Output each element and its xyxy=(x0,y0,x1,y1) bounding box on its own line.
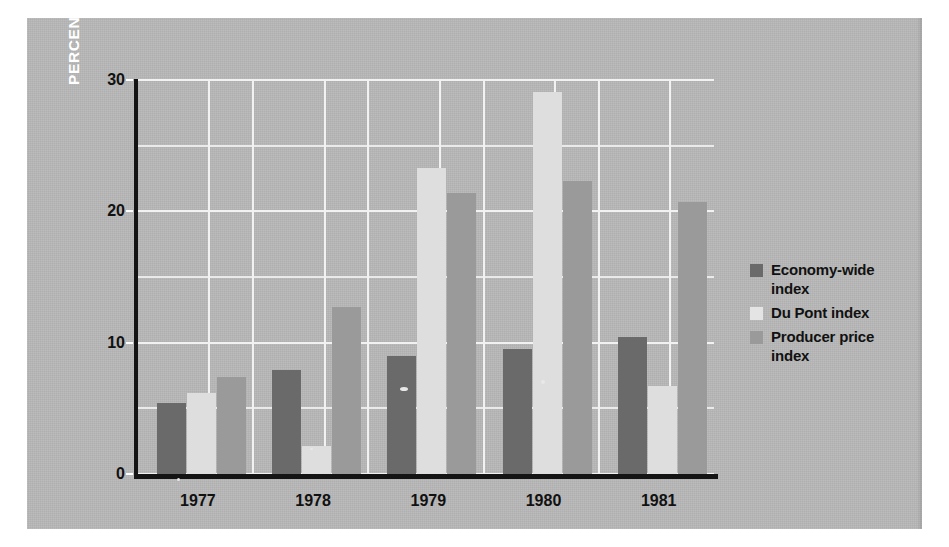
y-tick-label: 30 xyxy=(107,71,125,89)
x-tick-label: 1978 xyxy=(295,492,331,510)
y-axis-title: PERCENT CHANGE xyxy=(63,0,85,85)
y-tick-mark xyxy=(126,342,133,344)
bar xyxy=(272,370,301,474)
legend-label: Producer price index xyxy=(771,327,910,365)
bar xyxy=(387,356,416,474)
legend-item-1[interactable]: Economy-wide index xyxy=(750,260,910,298)
figure-plate: PERCENT CHANGE 3020100 19771978197919801… xyxy=(27,18,922,529)
bar xyxy=(302,446,331,474)
bar-group-1977 xyxy=(138,80,253,474)
bar xyxy=(157,403,186,474)
legend-swatch-icon xyxy=(750,264,763,277)
bar xyxy=(618,337,647,474)
legend-label: Economy-wide index xyxy=(771,260,910,298)
y-tick-mark xyxy=(126,473,133,475)
chart-legend: Economy-wide indexDu Pont indexProducer … xyxy=(750,260,910,370)
bar-group-1980 xyxy=(484,80,599,474)
bar xyxy=(332,307,361,474)
bar xyxy=(533,92,562,474)
x-tick-label: 1979 xyxy=(411,492,447,510)
bar-group-1978 xyxy=(253,80,368,474)
plot-area: 3020100 19771978197919801981 xyxy=(138,80,714,474)
y-tick-label: 0 xyxy=(116,465,125,483)
x-axis-line xyxy=(134,474,718,479)
legend-item-3[interactable]: Producer price index xyxy=(750,327,910,365)
x-tick-label: 1980 xyxy=(526,492,562,510)
bar xyxy=(417,168,446,474)
legend-item-2[interactable]: Du Pont index xyxy=(750,303,910,322)
bar-group-1981 xyxy=(599,80,714,474)
bar-group-1979 xyxy=(368,80,483,474)
bar xyxy=(187,393,216,474)
legend-swatch-icon xyxy=(750,307,763,320)
bar xyxy=(648,386,677,474)
bar xyxy=(503,349,532,474)
x-tick-label: 1981 xyxy=(641,492,677,510)
y-tick-mark xyxy=(126,210,133,212)
bar xyxy=(678,202,707,474)
chart-screenshot: PERCENT CHANGE 3020100 19771978197919801… xyxy=(0,0,949,547)
y-tick-label: 20 xyxy=(107,202,125,220)
legend-label: Du Pont index xyxy=(771,303,869,322)
y-tick-mark xyxy=(126,79,133,81)
x-tick-label: 1977 xyxy=(180,492,216,510)
bar xyxy=(447,193,476,474)
bar xyxy=(563,181,592,474)
bar xyxy=(217,377,246,474)
y-tick-label: 10 xyxy=(107,334,125,352)
legend-swatch-icon xyxy=(750,331,763,344)
